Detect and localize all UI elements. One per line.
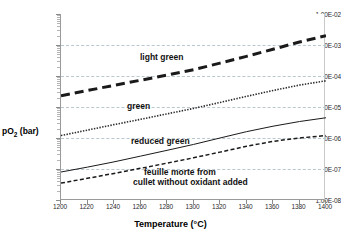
x-tick-label: 1360 bbox=[257, 203, 287, 210]
x-tick-label: 1200 bbox=[45, 203, 75, 210]
x-tick-label: 1400 bbox=[310, 203, 340, 210]
x-major-tick bbox=[325, 200, 326, 204]
series-line-green bbox=[61, 81, 326, 136]
y-axis-title-base: pO bbox=[2, 126, 14, 136]
x-major-tick bbox=[140, 200, 141, 204]
x-tick-label: 1320 bbox=[204, 203, 234, 210]
x-major-tick bbox=[246, 200, 247, 204]
x-axis-title: Temperature (°C) bbox=[0, 219, 341, 229]
x-major-tick bbox=[60, 200, 61, 204]
x-major-tick bbox=[166, 200, 167, 204]
series-label-reduced-green: reduced green bbox=[131, 136, 190, 146]
x-major-tick bbox=[299, 200, 300, 204]
x-tick-label: 1340 bbox=[231, 203, 261, 210]
series-line-reduced-green bbox=[61, 118, 326, 172]
x-tick-label: 1300 bbox=[178, 203, 208, 210]
y-axis-title: pO2 (bar) bbox=[2, 126, 39, 138]
x-tick-label: 1240 bbox=[98, 203, 128, 210]
chart-container: pO2 (bar) 1.00E-021.00E-031.00E-041.00E-… bbox=[0, 0, 341, 240]
series-line-light-green bbox=[61, 36, 326, 96]
x-major-tick bbox=[219, 200, 220, 204]
x-major-tick bbox=[113, 200, 114, 204]
x-tick-label: 1220 bbox=[72, 203, 102, 210]
x-tick-label: 1380 bbox=[284, 203, 314, 210]
series-label-light-green: light green bbox=[140, 52, 183, 62]
x-tick-label: 1280 bbox=[151, 203, 181, 210]
x-major-tick bbox=[193, 200, 194, 204]
x-major-tick bbox=[272, 200, 273, 204]
series-label-feuille-morte-line1: feuille morte from bbox=[144, 167, 216, 177]
y-axis-title-unit: (bar) bbox=[17, 126, 38, 136]
series-label-green: green bbox=[127, 101, 150, 111]
x-major-tick bbox=[87, 200, 88, 204]
x-tick-label: 1260 bbox=[125, 203, 155, 210]
series-label-feuille-morte-line2: cullet without oxidant added bbox=[133, 177, 248, 187]
